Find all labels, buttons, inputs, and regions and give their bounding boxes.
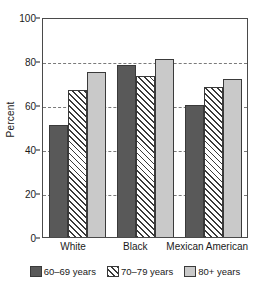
bar-groups [43, 19, 247, 237]
hatched-swatch-icon [107, 266, 119, 277]
legend-label-70-79: 70–79 years [121, 266, 173, 277]
y-tick-mark [36, 62, 40, 63]
dark-swatch-icon [30, 266, 42, 277]
bar-white-60-69 [49, 125, 68, 237]
bar-mexican-american-70-79 [204, 87, 223, 237]
plot-area [42, 18, 248, 238]
x-axis-labels: White Black Mexican American [42, 241, 248, 252]
x-label-mexican-american: Mexican American [166, 241, 248, 252]
chart-legend: 60–69 years 70–79 years 80+ years [0, 266, 270, 277]
y-tick-label: 20 [25, 189, 36, 200]
y-tick-mark [36, 150, 40, 151]
bar-black-70-79 [136, 76, 155, 237]
bar-chart: Percent 100 80 60 40 20 0 [0, 0, 270, 291]
bar-group-white [43, 19, 111, 237]
legend-item-60-69: 60–69 years [30, 266, 96, 277]
legend-label-80plus: 80+ years [198, 266, 240, 277]
y-tick-label: 40 [25, 145, 36, 156]
bar-black-60-69 [117, 65, 136, 237]
bar-black-80plus [155, 59, 174, 237]
y-tick-label: 80 [25, 57, 36, 68]
bar-white-70-79 [68, 90, 87, 237]
y-tick-mark [36, 18, 40, 19]
bar-mexican-american-80plus [223, 79, 242, 237]
y-tick-mark [36, 238, 40, 239]
y-tick-label: 60 [25, 101, 36, 112]
legend-item-70-79: 70–79 years [107, 266, 173, 277]
y-tick-mark [36, 106, 40, 107]
legend-item-80plus: 80+ years [184, 266, 240, 277]
bar-white-80plus [87, 72, 106, 237]
light-swatch-icon [184, 266, 196, 277]
y-tick-mark [36, 194, 40, 195]
x-label-white: White [42, 241, 104, 252]
bar-group-mexican-american [179, 19, 247, 237]
x-label-black: Black [104, 241, 166, 252]
legend-label-60-69: 60–69 years [44, 266, 96, 277]
y-tick-label: 100 [19, 13, 36, 24]
bar-mexican-american-60-69 [185, 105, 204, 237]
bar-group-black [111, 19, 179, 237]
y-axis-ticks: 100 80 60 40 20 0 [14, 18, 40, 238]
